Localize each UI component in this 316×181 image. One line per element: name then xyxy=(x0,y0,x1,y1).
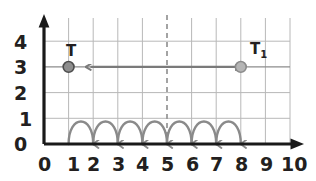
point-T1[interactable] xyxy=(235,62,246,73)
x-tick-label-10: 10 xyxy=(281,155,307,174)
x-tick-label-4: 4 xyxy=(136,155,149,174)
point-label-T1-base: T xyxy=(250,40,260,58)
y-tick-label-4: 4 xyxy=(14,33,27,52)
y-tick-label-0: 0 xyxy=(14,135,27,154)
x-tick-label-7: 7 xyxy=(210,155,223,174)
y-tick-label-2: 2 xyxy=(14,84,27,103)
point-label-T: T xyxy=(66,44,76,59)
x-tick-label-9: 9 xyxy=(260,155,273,174)
point-label-T1-subscript: 1 xyxy=(260,49,267,60)
axis-arrowheads xyxy=(39,14,304,149)
x-tick-label-3: 3 xyxy=(112,155,125,174)
x-tick-label-8: 8 xyxy=(235,155,248,174)
x-tick-label-1: 1 xyxy=(67,155,80,174)
diagram-canvas: 4 3 2 1 0 0 1 2 3 4 5 6 7 8 9 10 T T1 xyxy=(0,0,316,181)
point-T[interactable] xyxy=(63,62,74,73)
y-tick-label-1: 1 xyxy=(19,110,32,129)
hop-arcs xyxy=(69,122,241,145)
x-tick-label-2: 2 xyxy=(87,155,100,174)
x-tick-label-0: 0 xyxy=(38,155,51,174)
x-tick-label-5: 5 xyxy=(161,155,174,174)
grid-vertical xyxy=(69,18,290,144)
y-tick-label-3: 3 xyxy=(14,58,27,77)
point-label-T1: T1 xyxy=(250,42,267,60)
x-tick-label-6: 6 xyxy=(186,155,199,174)
